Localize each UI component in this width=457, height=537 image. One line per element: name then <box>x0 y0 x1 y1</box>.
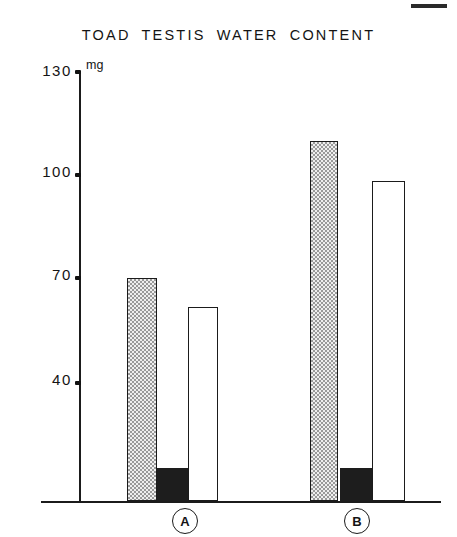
bar-group-b-stippled <box>310 141 338 501</box>
bar-group-a-open <box>188 307 218 501</box>
y-tick-mark-130 <box>75 70 81 74</box>
y-tick-label-wrap-40: 40 <box>0 371 72 389</box>
group-label-a-text: A <box>180 514 189 529</box>
group-label-b: B <box>344 508 370 534</box>
y-tick-label-100: 100 <box>42 163 72 180</box>
chart-figure: TOAD TESTIS WATER CONTENT mg 130 100 70 … <box>0 0 457 537</box>
scan-artifact-mark <box>411 4 447 8</box>
x-axis-line <box>41 501 441 503</box>
y-tick-mark-70 <box>75 276 81 280</box>
y-tick-label-130: 130 <box>42 62 72 79</box>
y-tick-label-40: 40 <box>52 371 72 388</box>
y-tick-mark-40 <box>75 381 81 385</box>
bar-group-b-open <box>372 181 405 501</box>
y-tick-label-wrap-100: 100 <box>0 163 72 181</box>
y-axis-line <box>79 72 81 503</box>
y-tick-label-70: 70 <box>52 266 72 283</box>
bar-group-b-solid <box>340 468 372 501</box>
y-tick-label-wrap-70: 70 <box>0 266 72 284</box>
chart-title: TOAD TESTIS WATER CONTENT <box>0 27 457 43</box>
group-label-b-text: B <box>352 514 361 529</box>
bar-group-a-stippled <box>127 278 157 501</box>
y-tick-mark-100 <box>75 173 81 177</box>
y-tick-label-wrap-130: 130 <box>0 62 72 80</box>
group-label-a: A <box>172 508 198 534</box>
y-axis-unit-label: mg <box>86 58 103 72</box>
bar-group-a-solid <box>157 468 188 501</box>
